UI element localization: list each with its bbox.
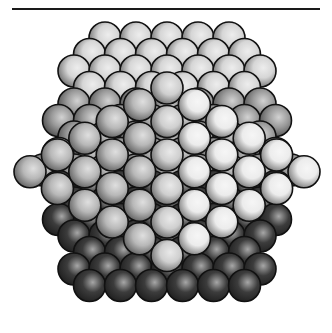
front-sphere — [151, 139, 183, 171]
front-sphere — [69, 189, 101, 221]
front-sphere — [178, 122, 210, 154]
front-sphere — [96, 139, 128, 171]
back-sphere — [167, 270, 199, 302]
back-sphere — [198, 270, 230, 302]
back-sphere — [136, 270, 168, 302]
front-sphere — [124, 89, 156, 121]
front-sphere — [151, 240, 183, 272]
front-sphere — [178, 189, 210, 221]
front-sphere — [41, 139, 73, 171]
front-sphere — [41, 173, 73, 205]
front-sphere — [124, 122, 156, 154]
front-sphere — [178, 223, 210, 255]
front-sphere — [178, 89, 210, 121]
front-sphere — [151, 72, 183, 104]
front-sphere — [151, 106, 183, 138]
front-sphere — [151, 173, 183, 205]
front-sphere — [206, 206, 238, 238]
front-sphere — [178, 156, 210, 188]
back-sphere — [229, 270, 261, 302]
back-sphere — [105, 270, 137, 302]
front-sphere — [96, 173, 128, 205]
front-sphere — [124, 223, 156, 255]
front-sphere — [14, 156, 46, 188]
front-sphere — [233, 122, 265, 154]
front-sphere — [151, 206, 183, 238]
front-sphere — [96, 206, 128, 238]
front-sphere — [96, 106, 128, 138]
sphere-cluster-image — [0, 0, 332, 333]
front-sphere — [124, 156, 156, 188]
front-sphere — [261, 173, 293, 205]
front-sphere — [233, 189, 265, 221]
front-sphere — [69, 156, 101, 188]
front-sphere — [206, 139, 238, 171]
front-sphere — [288, 156, 320, 188]
front-sphere — [206, 106, 238, 138]
front-sphere — [233, 156, 265, 188]
front-sphere — [69, 122, 101, 154]
front-sphere — [261, 139, 293, 171]
front-sphere — [124, 189, 156, 221]
back-sphere — [74, 270, 106, 302]
front-sphere — [206, 173, 238, 205]
